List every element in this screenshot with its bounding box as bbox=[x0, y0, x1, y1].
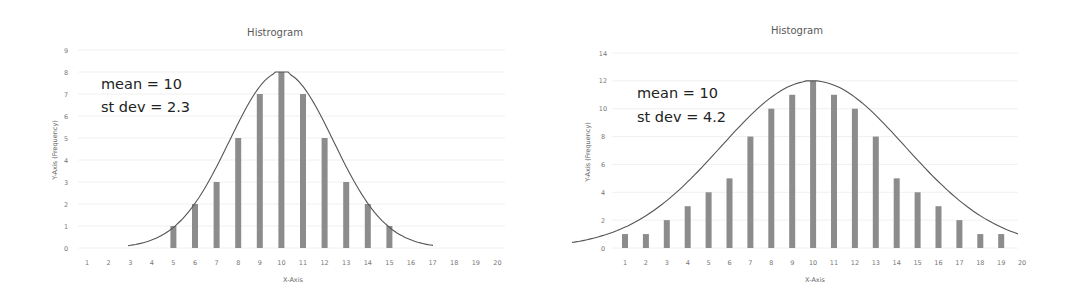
x-tick-label: 14 bbox=[893, 259, 901, 267]
x-tick-label: 10 bbox=[277, 259, 285, 267]
histogram-bar bbox=[852, 109, 858, 248]
x-tick-label: 17 bbox=[428, 259, 436, 267]
x-axis-ticks: 1234567891011121314151617181920 bbox=[623, 259, 1026, 267]
histogram-bar bbox=[894, 178, 900, 248]
mean-annotation: mean = 10 bbox=[637, 85, 718, 101]
y-tick-label: 1 bbox=[64, 223, 68, 231]
y-tick-label: 6 bbox=[64, 113, 68, 121]
y-tick-label: 3 bbox=[64, 179, 68, 187]
mean-annotation: mean = 10 bbox=[101, 76, 182, 92]
x-tick-label: 9 bbox=[258, 259, 262, 267]
x-tick-label: 10 bbox=[809, 259, 817, 267]
x-axis-label: X-Axis bbox=[283, 276, 303, 284]
histogram-bar bbox=[192, 204, 198, 248]
x-tick-label: 7 bbox=[215, 259, 219, 267]
y-tick-label: 0 bbox=[601, 245, 605, 253]
histogram-bar bbox=[727, 178, 733, 248]
x-tick-label: 2 bbox=[107, 259, 111, 267]
y-tick-label: 10 bbox=[599, 105, 607, 113]
x-tick-label: 3 bbox=[665, 259, 669, 267]
x-tick-label: 5 bbox=[707, 259, 711, 267]
histogram-bar bbox=[664, 220, 670, 248]
x-tick-label: 7 bbox=[748, 259, 752, 267]
x-tick-label: 19 bbox=[997, 259, 1005, 267]
histogram-bar bbox=[768, 109, 774, 248]
histogram-bar bbox=[747, 137, 753, 248]
y-tick-label: 4 bbox=[64, 157, 68, 165]
histogram-bar bbox=[622, 234, 628, 248]
x-tick-label: 20 bbox=[1018, 259, 1026, 267]
histogram-bar bbox=[936, 206, 942, 248]
x-tick-label: 8 bbox=[769, 259, 773, 267]
x-tick-label: 13 bbox=[342, 259, 350, 267]
x-tick-label: 8 bbox=[236, 259, 240, 267]
x-tick-label: 12 bbox=[851, 259, 859, 267]
x-tick-label: 12 bbox=[320, 259, 328, 267]
x-tick-label: 16 bbox=[407, 259, 415, 267]
x-tick-label: 14 bbox=[364, 259, 372, 267]
y-tick-label: 4 bbox=[601, 189, 605, 197]
y-tick-label: 5 bbox=[64, 135, 68, 143]
histogram-bar bbox=[643, 234, 649, 248]
y-tick-label: 8 bbox=[601, 133, 605, 141]
x-tick-label: 19 bbox=[472, 259, 480, 267]
x-tick-label: 18 bbox=[976, 259, 984, 267]
histogram-bar bbox=[365, 204, 371, 248]
stdev-annotation: st dev = 2.3 bbox=[101, 99, 190, 115]
y-tick-label: 6 bbox=[601, 161, 605, 169]
x-tick-label: 18 bbox=[450, 259, 458, 267]
histogram-bar bbox=[278, 72, 284, 248]
y-tick-label: 7 bbox=[64, 91, 68, 99]
x-tick-label: 5 bbox=[171, 259, 175, 267]
histogram-chart-right: Histogram 02468101214 123456789101112131… bbox=[572, 25, 1026, 284]
x-tick-label: 3 bbox=[128, 259, 132, 267]
y-axis-ticks: 02468101214 bbox=[599, 50, 607, 253]
x-tick-label: 11 bbox=[299, 259, 307, 267]
x-tick-label: 1 bbox=[623, 259, 627, 267]
x-tick-label: 1 bbox=[85, 259, 89, 267]
histogram-bar bbox=[214, 182, 220, 248]
histogram-bar bbox=[706, 192, 712, 248]
x-tick-label: 4 bbox=[150, 259, 154, 267]
x-tick-label: 11 bbox=[830, 259, 838, 267]
x-tick-label: 9 bbox=[790, 259, 794, 267]
y-axis-ticks: 0123456789 bbox=[64, 47, 68, 253]
histogram-figure: Histrogram 0123456789 123456789101112131… bbox=[0, 0, 1069, 299]
stdev-annotation: st dev = 4.2 bbox=[637, 109, 726, 125]
y-tick-label: 9 bbox=[64, 47, 68, 55]
histogram-bar bbox=[831, 95, 837, 248]
y-tick-label: 14 bbox=[599, 50, 607, 58]
x-axis-ticks: 1234567891011121314151617181920 bbox=[85, 259, 502, 267]
x-tick-label: 20 bbox=[493, 259, 501, 267]
y-tick-label: 8 bbox=[64, 69, 68, 77]
histogram-bar bbox=[789, 95, 795, 248]
histogram-bar bbox=[977, 234, 983, 248]
y-axis-label: Y-Axis (Frequency) bbox=[51, 120, 59, 181]
histogram-bar bbox=[956, 220, 962, 248]
y-tick-label: 2 bbox=[64, 201, 68, 209]
x-tick-label: 6 bbox=[727, 259, 731, 267]
histogram-chart-left: Histrogram 0123456789 123456789101112131… bbox=[51, 27, 505, 284]
histogram-bar bbox=[873, 137, 879, 248]
histogram-bar bbox=[322, 138, 328, 248]
x-tick-label: 2 bbox=[644, 259, 648, 267]
histogram-bar bbox=[235, 138, 241, 248]
histogram-bar bbox=[685, 206, 691, 248]
x-tick-label: 4 bbox=[686, 259, 690, 267]
histogram-bar bbox=[810, 81, 816, 248]
x-tick-label: 15 bbox=[385, 259, 393, 267]
x-tick-label: 13 bbox=[872, 259, 880, 267]
y-axis-label: Y-Axis (Frequency) bbox=[584, 122, 592, 183]
y-tick-label: 2 bbox=[601, 217, 605, 225]
histogram-bar bbox=[257, 94, 263, 248]
x-tick-label: 6 bbox=[193, 259, 197, 267]
chart-title: Histogram bbox=[771, 25, 823, 36]
x-axis-label: X-Axis bbox=[805, 276, 825, 284]
histogram-bar bbox=[998, 234, 1004, 248]
histogram-bar bbox=[915, 192, 921, 248]
x-tick-label: 15 bbox=[913, 259, 921, 267]
x-tick-label: 16 bbox=[934, 259, 942, 267]
chart-title: Histrogram bbox=[247, 27, 303, 38]
y-tick-label: 0 bbox=[64, 245, 68, 253]
y-tick-label: 12 bbox=[599, 77, 607, 85]
